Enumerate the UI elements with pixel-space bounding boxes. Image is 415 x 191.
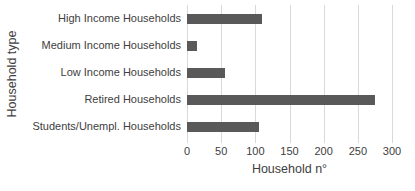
x-axis-title: Household n° bbox=[187, 162, 392, 176]
gridline bbox=[324, 5, 325, 143]
category-label: Low Income Households bbox=[0, 59, 181, 86]
bar bbox=[187, 122, 259, 132]
bar bbox=[187, 41, 197, 51]
bar bbox=[187, 68, 225, 78]
bar bbox=[187, 95, 375, 105]
gridline bbox=[358, 5, 359, 143]
gridline bbox=[290, 5, 291, 143]
category-label: Retired Households bbox=[0, 86, 181, 113]
bar bbox=[187, 14, 262, 24]
gridline bbox=[392, 5, 393, 143]
x-tick-label: 300 bbox=[370, 145, 414, 157]
category-label: High Income Households bbox=[0, 5, 181, 32]
category-label: Medium Income Households bbox=[0, 32, 181, 59]
household-bar-chart: Household type Household n° High Income … bbox=[0, 0, 415, 191]
category-label: Students/Unempl. Households bbox=[0, 113, 181, 140]
